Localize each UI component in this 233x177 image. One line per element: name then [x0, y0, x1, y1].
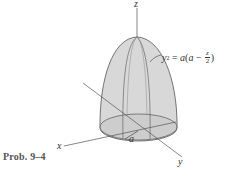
x-axis-label: x [57, 141, 61, 151]
eq-close-paren: ) [211, 52, 214, 63]
eq-fraction: z 2 [205, 50, 210, 65]
equation: y2 = a ( a − z 2 ) [162, 50, 214, 65]
y-axis-label: y [178, 157, 182, 167]
radius-label: a [129, 134, 134, 144]
figure-caption: Prob. 9–4 [3, 151, 46, 162]
z-axis-label: z [134, 0, 138, 9]
eq-frac-den: 2 [206, 58, 210, 65]
eq-minus: − [193, 52, 204, 63]
eq-equals: = [169, 52, 180, 63]
